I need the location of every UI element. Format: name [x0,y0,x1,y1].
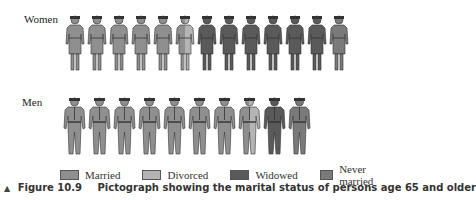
never-married-swatch [320,170,333,180]
women-pictogram-row [64,14,350,76]
figure-number: Figure 10.9 [18,182,82,193]
man-icon [137,96,162,158]
woman-icon [196,14,218,76]
man-icon [237,96,262,158]
married-swatch [60,170,79,180]
woman-icon [130,14,152,76]
man-icon [87,96,112,158]
man-icon [262,96,287,158]
man-icon [162,96,187,158]
woman-icon [262,14,284,76]
woman-icon [284,14,306,76]
men-pictogram-row [62,96,312,158]
woman-icon [174,14,196,76]
man-icon [287,96,312,158]
legend-label: Divorced [167,169,208,181]
men-row-label: Men [22,96,42,108]
woman-icon [306,14,328,76]
woman-icon [152,14,174,76]
figure-caption: ▲ Figure 10.9 Pictograph showing the mar… [4,182,476,193]
woman-icon [328,14,350,76]
widowed-swatch [230,170,249,180]
woman-icon [64,14,86,76]
caption-text: Pictograph showing the marital status of… [98,182,476,193]
woman-icon [86,14,108,76]
woman-icon [218,14,240,76]
divorced-swatch [142,170,161,180]
man-icon [187,96,212,158]
legend-label: Widowed [255,169,297,181]
legend-item-widowed: Widowed [230,169,297,181]
woman-icon [108,14,130,76]
woman-icon [240,14,262,76]
legend-label: Married [85,169,120,181]
legend-item-married: Married [60,169,120,181]
legend-item-divorced: Divorced [142,169,208,181]
man-icon [212,96,237,158]
man-icon [112,96,137,158]
triangle-marker-icon: ▲ [4,184,10,193]
man-icon [62,96,87,158]
women-row-label: Women [24,13,58,25]
